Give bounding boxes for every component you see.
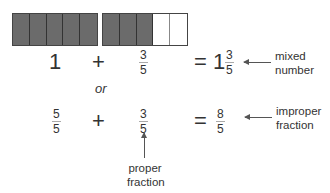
or-text: or — [95, 81, 107, 96]
numerator: 3 — [139, 49, 148, 63]
mixed-number-label: mixed number — [275, 49, 314, 78]
fraction-five-fifths: 5 5 — [52, 108, 61, 135]
label-line: number — [275, 63, 314, 77]
denominator: 5 — [53, 122, 60, 135]
label-line: fraction — [127, 175, 163, 189]
equals-sign: = — [194, 110, 207, 132]
bar-cell-shaded — [30, 14, 47, 45]
improper-fraction-label: improper fraction — [276, 104, 321, 133]
bar-cell-shaded — [80, 14, 97, 45]
bar-cell-shaded — [137, 14, 154, 45]
mixed-whole: 1 — [213, 51, 225, 73]
label-line: improper — [276, 104, 321, 118]
denominator: 5 — [226, 63, 233, 76]
whole-number: 1 — [49, 51, 61, 73]
bar-cell-shaded — [120, 14, 137, 45]
numerator: 8 — [216, 108, 225, 122]
label-line: fraction — [276, 118, 321, 132]
bar-cell-empty — [153, 14, 170, 45]
bar-cell-shaded — [103, 14, 120, 45]
proper-fraction-label: proper fraction — [127, 161, 163, 190]
numerator: 3 — [225, 49, 234, 63]
fraction-eight-fifths: 8 5 — [216, 108, 225, 135]
label-line: mixed — [275, 49, 314, 63]
label-line: proper — [127, 161, 163, 175]
numerator: 3 — [139, 108, 148, 122]
arrow-left-icon — [245, 117, 272, 118]
fraction-three-fifths: 3 5 — [139, 108, 148, 135]
bar-cell-shaded — [13, 14, 30, 45]
numerator: 5 — [52, 108, 61, 122]
whole-bar — [12, 13, 98, 46]
bar-cell-shaded — [63, 14, 80, 45]
bar-cell-shaded — [47, 14, 64, 45]
fraction-three-fifths: 3 5 — [139, 49, 148, 76]
equals-sign: = — [194, 51, 207, 73]
part-bar — [102, 13, 188, 46]
denominator: 5 — [140, 63, 147, 76]
denominator: 5 — [217, 122, 224, 135]
mixed-fraction: 3 5 — [225, 49, 234, 76]
arrow-up-icon — [144, 133, 145, 158]
bar-cell-empty — [170, 14, 187, 45]
plus-sign: + — [92, 110, 105, 132]
arrow-left-icon — [244, 62, 271, 63]
plus-sign: + — [92, 51, 105, 73]
